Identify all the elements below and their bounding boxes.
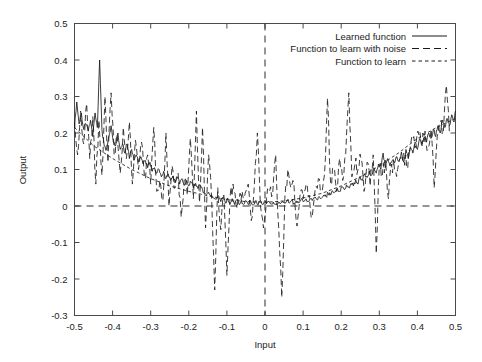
legend-label-3: Function to learn [335,56,406,67]
x-tick-label: -0.3 [143,321,159,332]
y-tick-label: -0.3 [51,310,67,321]
y-axis-title: Output [17,155,28,184]
x-tick-label: 0.3 [373,321,386,332]
chart-background [0,0,482,362]
y-axis-tick-labels: -0.3-0.2-0.100.10.20.30.40.5 [51,18,67,321]
y-tick-label: 0.4 [54,55,67,66]
y-tick-label: 0.5 [54,18,67,29]
x-tick-label: 0.4 [411,321,424,332]
x-tick-label: -0.5 [66,321,82,332]
y-tick-label: -0.2 [51,274,67,285]
chart-plot-area: -0.5-0.4-0.3-0.2-0.100.10.20.30.40.5 -0.… [0,0,482,362]
x-tick-label: -0.1 [219,321,235,332]
x-tick-label: 0.2 [335,321,348,332]
x-tick-label: 0 [262,321,267,332]
legend-label-1: Learned function [335,31,406,42]
x-tick-label: -0.2 [181,321,197,332]
y-tick-label: 0.3 [54,91,67,102]
x-tick-label: 0.5 [449,321,462,332]
y-tick-label: 0 [62,201,67,212]
x-axis-title: Input [254,339,275,350]
y-tick-label: -0.1 [51,237,67,248]
legend-label-2: Function to learn with noise [290,43,406,54]
y-tick-label: 0.1 [54,164,67,175]
x-tick-label: -0.4 [104,321,120,332]
chart-figure: -0.5-0.4-0.3-0.2-0.100.10.20.30.40.5 -0.… [0,0,482,362]
y-tick-label: 0.2 [54,128,67,139]
x-tick-label: 0.1 [296,321,309,332]
